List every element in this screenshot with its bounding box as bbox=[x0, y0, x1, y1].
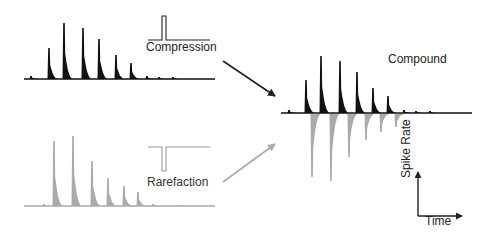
compound-label: Compound bbox=[388, 52, 447, 66]
axes-legend-icon bbox=[418, 172, 462, 216]
diagram-stage: Compression Rarefaction Compound Spike R… bbox=[0, 0, 492, 235]
compression-label: Compression bbox=[146, 40, 217, 54]
x-axis-label: Time bbox=[425, 214, 451, 228]
diagram-canvas bbox=[0, 0, 492, 235]
rarefaction-arrow-icon bbox=[223, 144, 275, 182]
compound-trace bbox=[281, 56, 472, 181]
y-axis-label: Spike Rate bbox=[399, 119, 413, 178]
rarefaction-label: Rarefaction bbox=[147, 175, 208, 189]
compression-pulse-icon bbox=[148, 16, 210, 40]
rarefaction-pulse-icon bbox=[148, 147, 210, 171]
compression-arrow-icon bbox=[223, 61, 275, 96]
